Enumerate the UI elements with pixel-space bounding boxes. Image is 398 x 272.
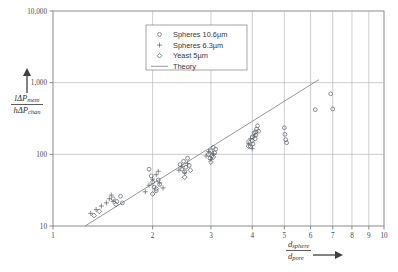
x-tick-label: 3 bbox=[209, 232, 213, 240]
legend-label: Spheres 6.3µm bbox=[173, 41, 223, 50]
x-tick-label: 4 bbox=[250, 232, 254, 240]
data-point-circle bbox=[178, 163, 182, 167]
theory-trendline bbox=[85, 80, 319, 226]
data-point-circle bbox=[186, 156, 190, 160]
x-axis-tick-labels: 12345678910 bbox=[51, 232, 388, 240]
x-axis-ticks bbox=[53, 226, 384, 230]
x-axis-numerator-subscript: sphere bbox=[292, 242, 309, 249]
data-point-diamond bbox=[92, 213, 97, 218]
series-diamond bbox=[92, 130, 259, 218]
y-tick-label: 10,000 bbox=[27, 8, 47, 16]
series-circle bbox=[111, 92, 334, 205]
data-point-circle bbox=[119, 194, 123, 198]
x-tick-label: 1 bbox=[51, 232, 55, 240]
y-axis-label: lΔPmem hΔPchan bbox=[3, 68, 51, 117]
legend-label: Spheres 10.6µm bbox=[173, 30, 227, 39]
theory-line bbox=[85, 80, 319, 226]
x-axis-arrow-icon bbox=[313, 246, 343, 256]
data-point-circle bbox=[187, 164, 191, 168]
horizontal-gridlines bbox=[53, 83, 384, 155]
x-tick-label: 6 bbox=[309, 232, 313, 240]
x-axis-label: dsphere dpore bbox=[286, 240, 343, 261]
data-point-circle bbox=[313, 108, 317, 112]
data-point-diamond bbox=[188, 168, 193, 173]
x-tick-label: 2 bbox=[151, 232, 155, 240]
y-tick-label: 10 bbox=[40, 223, 48, 231]
legend-label: Theory bbox=[173, 62, 196, 71]
x-axis-numerator: dsphere bbox=[286, 240, 311, 250]
legend-label: Yeast 5µm bbox=[173, 51, 208, 60]
chart-legend: Spheres 10.6µmSpheres 6.3µmYeast 5µmTheo… bbox=[146, 25, 247, 71]
data-point-circle bbox=[283, 132, 287, 136]
y-axis-arrow-icon bbox=[3, 68, 51, 94]
x-tick-label: 9 bbox=[367, 232, 371, 240]
series-plus bbox=[88, 134, 256, 216]
y-axis-fraction: lΔPmem hΔPchan bbox=[11, 94, 42, 115]
data-point-circle bbox=[147, 167, 151, 171]
y-axis-ticks bbox=[50, 11, 54, 226]
data-point-circle bbox=[329, 92, 333, 96]
data-series-markers bbox=[88, 92, 334, 218]
x-axis-denominator: dpore bbox=[286, 250, 311, 261]
data-point-diamond bbox=[182, 175, 187, 180]
y-tick-label: 100 bbox=[36, 151, 47, 159]
y-axis-tick-labels: 101001,00010,000 bbox=[27, 8, 47, 231]
y-axis-numerator-subscript: mem bbox=[27, 96, 39, 103]
x-tick-label: 10 bbox=[380, 232, 388, 240]
y-axis-denominator-subscript: chan bbox=[28, 108, 41, 115]
x-tick-label: 5 bbox=[283, 232, 287, 240]
x-axis-denominator-subscript: pore bbox=[292, 254, 304, 261]
x-tick-label: 7 bbox=[331, 232, 335, 240]
x-tick-label: 8 bbox=[350, 232, 354, 240]
data-point-circle bbox=[182, 159, 186, 163]
y-axis-denominator: hΔPchan bbox=[11, 104, 42, 115]
plot-canvas: 12345678910 101001,00010,000 Spheres 10.… bbox=[0, 0, 398, 272]
x-axis-fraction: dsphere dpore bbox=[286, 240, 311, 261]
y-axis-numerator: lΔPmem bbox=[11, 94, 42, 104]
figure-scatter-plot: 12345678910 101001,00010,000 Spheres 10.… bbox=[0, 0, 398, 272]
